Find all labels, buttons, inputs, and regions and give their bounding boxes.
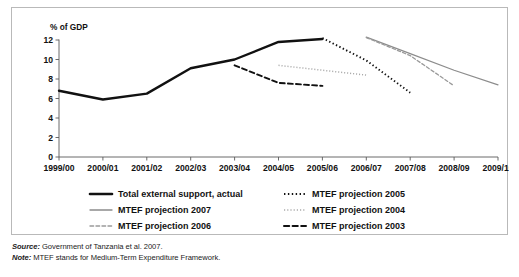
note-text: MTEF stands for Medium-Term Expenditure … (31, 253, 220, 262)
chart-legend: Total external support, actualMTEF proje… (12, 184, 509, 234)
source-line: Source: Government of Tanzania et al. 20… (12, 242, 512, 253)
x-tick-label: 2003/04 (219, 163, 250, 173)
x-tick-label: 2006/07 (351, 163, 382, 173)
chart-plot-area: 024681012% of GDP1999/002000/012001/0220… (12, 8, 509, 180)
y-tick-label: 6 (48, 94, 53, 104)
chart-panel: 024681012% of GDP1999/002000/012001/0220… (11, 7, 508, 235)
legend-entries: Total external support, actualMTEF proje… (12, 184, 509, 234)
y-tick-label: 10 (43, 55, 53, 65)
line-chart: 024681012% of GDP1999/002000/012001/0220… (12, 8, 509, 180)
y-tick-label: 12 (43, 35, 53, 45)
source-text: Government of Tanzania et al. 2007. (40, 242, 163, 251)
footnotes: Source: Government of Tanzania et al. 20… (12, 242, 512, 263)
x-tick-label: 2000/01 (87, 163, 118, 173)
x-tick-label: 2008/09 (439, 163, 470, 173)
series-line (59, 39, 322, 99)
series-line (279, 65, 367, 75)
y-tick-label: 2 (48, 133, 53, 143)
legend-label: Total external support, actual (118, 189, 243, 199)
x-tick-label: 2002/03 (175, 163, 206, 173)
series-line (366, 38, 454, 86)
x-tick-label: 2001/02 (131, 163, 162, 173)
x-tick-label: 1999/00 (43, 163, 74, 173)
legend-item: MTEF projection 2003 (284, 221, 405, 231)
x-tick-label: 2009/10 (482, 163, 509, 173)
legend-item: MTEF projection 2005 (284, 189, 405, 199)
legend-label: MTEF projection 2005 (312, 189, 405, 199)
figure-container: 024681012% of GDP1999/002000/012001/0220… (0, 0, 519, 277)
legend-item: MTEF projection 2004 (284, 205, 405, 215)
y-tick-label: 8 (48, 74, 53, 84)
source-label: Source: (12, 242, 40, 251)
y-tick-label: 0 (48, 152, 53, 162)
legend-label: MTEF projection 2007 (118, 205, 211, 215)
series-line (322, 38, 410, 93)
legend-label: MTEF projection 2004 (312, 205, 405, 215)
series-line (366, 37, 498, 85)
x-tick-label: 2004/05 (263, 163, 294, 173)
legend-item: Total external support, actual (90, 189, 243, 199)
y-axis-title: % of GDP (50, 22, 88, 32)
note-label: Note: (12, 253, 31, 262)
legend-item: MTEF projection 2006 (90, 221, 211, 231)
legend-label: MTEF projection 2003 (312, 221, 405, 231)
y-tick-label: 4 (48, 113, 53, 123)
x-tick-label: 2007/08 (395, 163, 426, 173)
note-line: Note: MTEF stands for Medium-Term Expend… (12, 253, 512, 264)
legend-item: MTEF projection 2007 (90, 205, 211, 215)
legend-label: MTEF projection 2006 (118, 221, 211, 231)
x-tick-label: 2005/06 (307, 163, 338, 173)
